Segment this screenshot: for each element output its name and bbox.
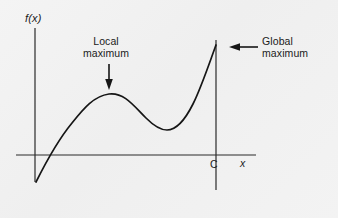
local-maximum-label: Local maximum	[70, 35, 142, 59]
x-axis-label: x	[240, 157, 245, 169]
local-maximum-arrow	[105, 64, 113, 90]
extrema-figure: f(x) Local maximum Global maximum C x	[0, 0, 338, 218]
plot-canvas	[0, 0, 338, 218]
global-maximum-label: Global maximum	[262, 35, 334, 59]
function-curve	[36, 45, 216, 182]
global-maximum-arrow	[229, 43, 258, 51]
y-axis-label: f(x)	[25, 12, 42, 24]
x-tick-label-c: C	[210, 158, 218, 170]
